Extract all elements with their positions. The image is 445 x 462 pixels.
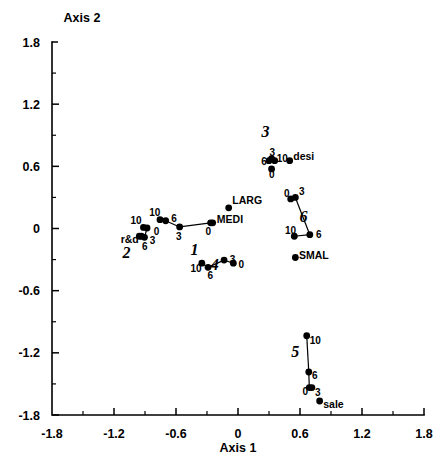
point-5-0-2-label: 0 [303, 386, 309, 397]
variable-point-MEDI-label: MEDI [217, 213, 243, 225]
point-1-0-3-label: 0 [205, 226, 211, 237]
ticks-group [52, 73, 393, 415]
point-1-10-0-label: 10 [149, 207, 161, 218]
point-1-6-1-label: 6 [171, 213, 177, 224]
point-1-3-2-label: 3 [176, 231, 182, 242]
point-6-10-3-label: 10 [285, 225, 297, 236]
x-tick-label-1: -1.2 [103, 427, 125, 441]
x-tick-label-0: -1.8 [41, 427, 63, 441]
biplot-canvas: 1.81.20.60-0.6-1.2-1.8-1.8-1.2-0.600.61.… [0, 0, 445, 462]
point-5-sale-4-label: sale [323, 398, 344, 410]
axis-spines [52, 42, 424, 415]
biplot-figure: 1.81.20.60-0.6-1.2-1.8-1.8-1.2-0.600.61.… [0, 0, 445, 462]
x-tick-label-3: 0 [235, 427, 242, 441]
cluster-label-2: 2 [121, 244, 130, 261]
y-axis-title: Axis 2 [64, 11, 101, 25]
data-points-group [136, 155, 323, 404]
point-3-10-2-label: 10 [277, 153, 289, 164]
y-tick-label-0: 1.8 [23, 36, 40, 50]
y-tick-label-1: 1.2 [23, 98, 40, 112]
point-2-10-0-label: 10 [131, 215, 143, 226]
variable-point-LARG-label: LARG [232, 194, 262, 206]
point-3-6-0-label: 6 [261, 156, 267, 167]
point-4-0-3-label: 0 [239, 259, 245, 270]
point-3-3-1-label: 3 [270, 147, 276, 158]
y-tick-label-2: 0.6 [23, 160, 40, 174]
point-1-6-1-marker [162, 217, 169, 224]
x-tick-label-4: 0.6 [291, 427, 308, 441]
x-tick-label-2: -0.6 [165, 427, 187, 441]
variable-point-LARG-marker [225, 204, 232, 211]
cluster-label-3: 3 [260, 123, 269, 140]
point-5-3-3-label: 3 [315, 387, 321, 398]
point-5-6-1-label: 6 [312, 370, 318, 381]
variable-point-SMAL-label: SMAL [299, 249, 329, 261]
variable-point-SMAL-marker [292, 254, 299, 261]
point-2-6-3-label: 6 [142, 241, 148, 252]
y-tick-label-5: -1.2 [18, 346, 40, 360]
point-2-3-2-label: 3 [150, 235, 156, 246]
point-4-3-2-label: 3 [230, 254, 236, 265]
x-tick-label-6: 1.8 [415, 427, 432, 441]
point-2-0-1-marker [144, 225, 151, 232]
point-6-6-2-marker [306, 231, 313, 238]
variable-point-desi-label: desi [293, 150, 314, 162]
point-6-3-1-marker [292, 194, 299, 201]
point-6-3-1-label: 3 [299, 186, 305, 197]
cluster-label-6: 6 [300, 208, 308, 225]
point-4-10-0-label: 10 [190, 263, 202, 274]
y-tick-label-4: -0.6 [18, 284, 40, 298]
cluster-label-1: 1 [191, 241, 199, 258]
axes-group [52, 42, 424, 415]
trajectory-link-5-9 [307, 336, 309, 372]
cluster-label-4: 4 [210, 256, 219, 273]
point-3-0-3-label: 0 [269, 169, 275, 180]
point-5-sale-4-marker [316, 398, 323, 405]
x-tick-label-5: 1.2 [353, 427, 370, 441]
cluster-label-5: 5 [291, 343, 299, 360]
point-5-10-0-label: 10 [310, 335, 322, 346]
y-tick-label-3: 0 [33, 222, 40, 236]
y-tick-label-6: -1.8 [18, 409, 40, 423]
point-6-6-2-label: 6 [316, 229, 322, 240]
point-4-3-2-marker [221, 257, 228, 264]
point-6-0-0-label: 0 [284, 188, 290, 199]
x-axis-title: Axis 1 [220, 441, 257, 455]
point-1-3-2-marker [176, 224, 183, 231]
tick-labels-group: 1.81.20.60-0.6-1.2-1.8-1.8-1.2-0.600.61.… [18, 36, 432, 442]
